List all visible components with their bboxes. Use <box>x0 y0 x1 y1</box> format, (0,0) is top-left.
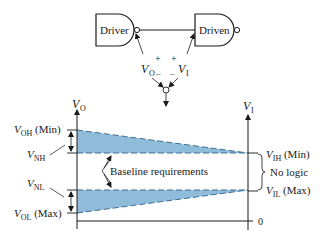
baseline-requirements-label: Baseline requirements <box>110 165 208 177</box>
vo-subscript: O <box>149 69 155 78</box>
vi-minus: – <box>169 68 175 78</box>
zero-label: 0 <box>258 216 263 227</box>
vi-probe-arrow <box>187 34 194 54</box>
svg-text:VIH (Min): VIH (Min) <box>266 148 310 163</box>
no-logic-label: No logic <box>270 166 308 178</box>
no-logic-brace <box>258 154 265 190</box>
vol-max-label: VOL (Max) <box>14 207 62 222</box>
svg-text:VNH: VNH <box>27 148 46 163</box>
vnl-label: VNL <box>27 177 45 192</box>
vo-probe-arrow <box>136 34 143 54</box>
driver-gate: Driver <box>96 14 140 46</box>
svg-text:VNL: VNL <box>27 177 45 192</box>
vnl-leader-line <box>50 188 64 197</box>
svg-text:VOH (Min): VOH (Min) <box>14 123 61 138</box>
summing-node <box>163 87 169 93</box>
driven-inversion-bubble <box>234 27 239 32</box>
vi-plus: + <box>171 53 177 64</box>
noise-margin-diagram: Driver Driven + + V O – – V I V O V I 0 <box>0 0 333 242</box>
svg-text:VIL (Max): VIL (Max) <box>266 184 311 199</box>
vi-subscript: I <box>186 69 189 78</box>
vnh-leader-line <box>50 145 65 155</box>
driven-gate: Driven <box>195 14 240 46</box>
vil-max-label: VIL (Max) <box>266 184 311 199</box>
baseline-bracket <box>102 160 110 182</box>
vo-plus: + <box>155 53 161 64</box>
voh-min-label: VOH (Min) <box>14 123 61 138</box>
vo-to-node-arrow <box>152 78 163 87</box>
vnh-label: VNH <box>27 148 46 163</box>
svg-text:VOL (Max): VOL (Max) <box>14 207 62 222</box>
driven-label: Driven <box>199 24 230 36</box>
vi-to-node-arrow <box>169 78 178 87</box>
vo-minus: – <box>155 68 161 78</box>
driver-inversion-bubble <box>134 27 139 32</box>
driver-label: Driver <box>100 24 129 36</box>
vo-axis-subscript: O <box>80 104 86 113</box>
vi-axis-subscript: I <box>251 106 254 115</box>
vih-min-label: VIH (Min) <box>266 148 310 163</box>
